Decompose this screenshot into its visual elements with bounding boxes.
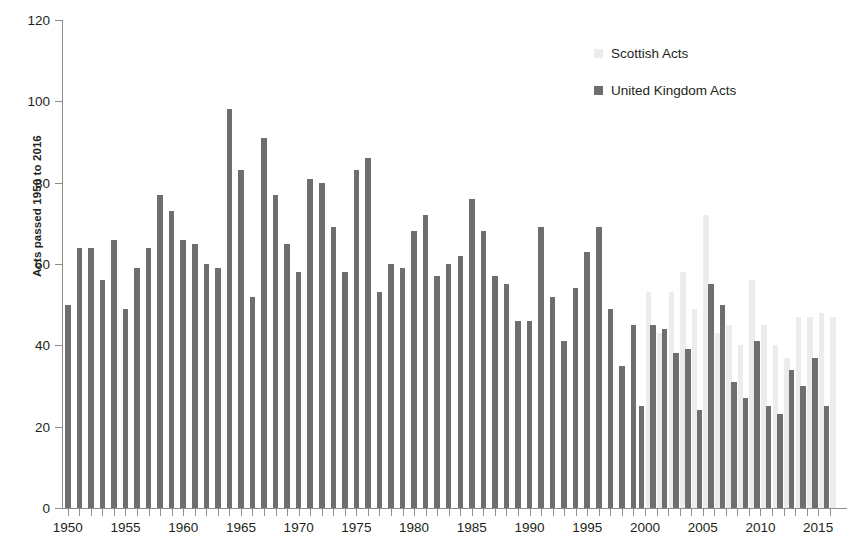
x-tick-label-1960: 1960 [168,520,198,535]
bar-uk-1990 [527,321,533,508]
x-tick-2016 [830,509,831,516]
bar-uk-1987 [492,276,498,508]
x-tick-1976 [368,509,369,516]
legend-item-scottish-acts: Scottish Acts [594,46,736,61]
bar-uk-1963 [215,268,221,508]
bar-uk-1952 [88,248,94,508]
y-tick-mark [55,264,62,265]
bar-uk-1994 [573,288,579,508]
x-tick-label-1970: 1970 [284,520,314,535]
x-tick-2003 [680,509,681,516]
x-tick-2000 [645,509,646,516]
bar-uk-1980 [411,231,417,508]
x-tick-1984 [460,509,461,516]
x-tick-2012 [784,509,785,516]
bar-uk-1997 [608,309,614,508]
bar-uk-1974 [342,272,348,508]
y-tick-mark [55,345,62,346]
x-tick-1961 [195,509,196,516]
bar-uk-1995 [584,252,590,508]
x-tick-1963 [218,509,219,516]
bar-uk-1957 [146,248,152,508]
bar-uk-1960 [180,240,186,508]
x-tick-2014 [807,509,808,516]
x-tick-1977 [379,509,380,516]
x-tick-1956 [137,509,138,516]
x-tick-label-1950: 1950 [53,520,83,535]
bar-uk-1993 [561,341,567,508]
x-tick-1970 [299,509,300,516]
x-tick-label-2010: 2010 [745,520,775,535]
x-tick-label-1980: 1980 [399,520,429,535]
x-tick-1957 [149,509,150,516]
x-tick-label-1965: 1965 [226,520,256,535]
bar-uk-1969 [284,244,290,508]
x-tick-2011 [772,509,773,516]
x-tick-label-1985: 1985 [457,520,487,535]
x-tick-1950 [68,509,69,516]
x-tick-label-1975: 1975 [341,520,371,535]
x-tick-1991 [541,509,542,516]
x-tick-2002 [668,509,669,516]
x-tick-1962 [206,509,207,516]
bar-uk-1976 [365,158,371,508]
bar-uk-1996 [596,227,602,508]
x-tick-1990 [530,509,531,516]
x-tick-2013 [795,509,796,516]
bar-uk-1981 [423,215,429,508]
x-tick-1972 [322,509,323,516]
bar-uk-2014 [800,386,806,508]
y-tick-label: 120 [27,13,50,28]
bar-uk-1965 [238,170,244,508]
chart-legend: Scottish Acts United Kingdom Acts [594,46,736,120]
x-tick-1964 [229,509,230,516]
x-tick-1998 [622,509,623,516]
y-axis-title: Acts passed 1950 to 2016 [31,81,43,331]
x-tick-2007 [726,509,727,516]
x-tick-1997 [610,509,611,516]
bar-uk-2012 [777,414,783,508]
x-tick-1951 [79,509,80,516]
x-tick-1969 [287,509,288,516]
x-tick-2009 [749,509,750,516]
x-tick-1985 [472,509,473,516]
legend-label-scottish: Scottish Acts [611,46,688,61]
x-tick-1955 [125,509,126,516]
bar-uk-1977 [377,292,383,508]
bar-uk-1955 [123,309,129,508]
bar-uk-1973 [331,227,337,508]
bar-uk-2002 [662,329,668,508]
y-tick-mark [55,101,62,102]
y-tick-mark [55,508,62,509]
x-tick-2006 [714,509,715,516]
x-tick-1988 [506,509,507,516]
x-tick-1978 [391,509,392,516]
bar-uk-1972 [319,183,325,508]
x-tick-label-1990: 1990 [515,520,545,535]
bar-uk-2009 [743,398,749,508]
bar-uk-2008 [731,382,737,508]
x-tick-label-1995: 1995 [572,520,602,535]
legend-swatch-icon-uk [594,86,603,95]
x-tick-1987 [495,509,496,516]
x-tick-1981 [426,509,427,516]
x-tick-1953 [102,509,103,516]
bar-uk-1998 [619,366,625,508]
bar-uk-2011 [766,406,772,508]
y-tick-label: 0 [42,501,50,516]
bar-uk-1950 [65,305,71,508]
bar-uk-1958 [157,195,163,508]
bar-uk-1964 [227,109,233,508]
bar-uk-1985 [469,199,475,508]
x-tick-1967 [264,509,265,516]
bar-uk-1954 [111,240,117,508]
legend-label-uk: United Kingdom Acts [611,83,736,98]
x-tick-label-1955: 1955 [110,520,140,535]
legend-swatch-icon-scottish [594,49,603,58]
x-tick-1993 [564,509,565,516]
x-tick-1995 [587,509,588,516]
bar-uk-1961 [192,244,198,508]
y-tick-label: 40 [35,338,50,353]
bar-uk-2000 [639,406,645,508]
x-tick-1971 [310,509,311,516]
